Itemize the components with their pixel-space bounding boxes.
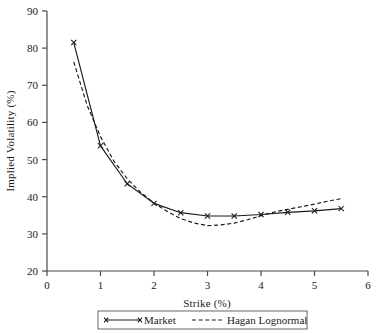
chart-legend: Market Hagan Lognormal bbox=[98, 311, 307, 329]
series-markers-market bbox=[71, 40, 344, 219]
x-axis-title: Strike (%) bbox=[183, 297, 231, 310]
y-tick-label-20: 20 bbox=[27, 265, 39, 277]
legend-label-market: Market bbox=[144, 314, 176, 326]
chart-figure: 90 80 70 60 50 40 30 20 0 1 2 3 4 5 bbox=[0, 0, 378, 333]
plot-series-group bbox=[71, 40, 344, 226]
axes-lines bbox=[47, 11, 368, 271]
y-tick-label-50: 50 bbox=[27, 154, 39, 166]
x-tick-label-0: 0 bbox=[44, 279, 50, 291]
y-tick-label-70: 70 bbox=[27, 79, 39, 91]
y-axis-ticks bbox=[42, 11, 47, 271]
x-axis-tick-labels: 0 1 2 3 4 5 6 bbox=[44, 279, 371, 291]
series-line-hagan-lognormal bbox=[74, 62, 342, 226]
y-tick-label-80: 80 bbox=[27, 42, 39, 54]
y-tick-label-40: 40 bbox=[27, 191, 39, 203]
y-tick-label-90: 90 bbox=[27, 5, 39, 17]
volatility-smile-chart: 90 80 70 60 50 40 30 20 0 1 2 3 4 5 bbox=[0, 0, 378, 333]
x-tick-label-6: 6 bbox=[365, 279, 371, 291]
x-tick-label-4: 4 bbox=[258, 279, 264, 291]
y-axis-tick-labels: 90 80 70 60 50 40 30 20 bbox=[27, 5, 39, 277]
legend-label-hagan-lognormal: Hagan Lognormal bbox=[227, 314, 307, 326]
y-tick-label-60: 60 bbox=[27, 116, 39, 128]
y-axis-title: Implied Volatility (%) bbox=[4, 90, 17, 191]
x-tick-label-5: 5 bbox=[312, 279, 318, 291]
y-tick-label-30: 30 bbox=[27, 228, 39, 240]
series-line-market bbox=[74, 43, 342, 216]
x-axis-ticks bbox=[47, 271, 368, 276]
x-tick-label-3: 3 bbox=[205, 279, 211, 291]
x-tick-label-1: 1 bbox=[98, 279, 104, 291]
x-tick-label-2: 2 bbox=[151, 279, 157, 291]
